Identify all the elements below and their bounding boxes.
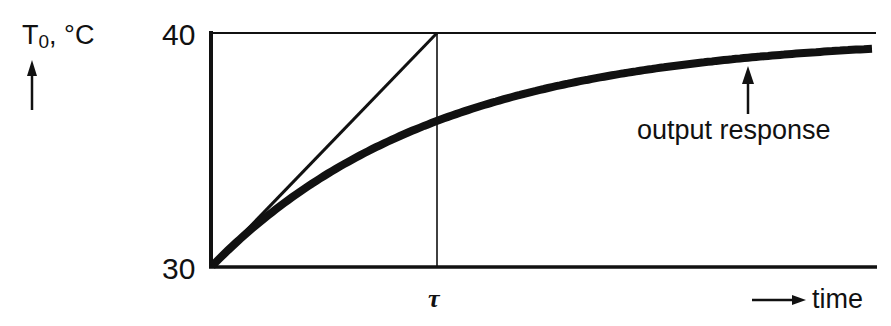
output-response-label: output response bbox=[637, 117, 831, 144]
ytick-30: 30 bbox=[162, 254, 195, 284]
annotation-arrow-head bbox=[742, 66, 754, 84]
time-arrow-head bbox=[792, 295, 806, 305]
ytick-40: 40 bbox=[162, 20, 195, 50]
response-chart bbox=[0, 0, 891, 326]
x-axis-label: time bbox=[812, 286, 863, 313]
output-response-curve bbox=[212, 49, 872, 266]
y-axis-label: T0, °C bbox=[22, 22, 94, 49]
xtick-tau: τ bbox=[428, 286, 440, 312]
y-up-arrow-head bbox=[27, 60, 37, 76]
